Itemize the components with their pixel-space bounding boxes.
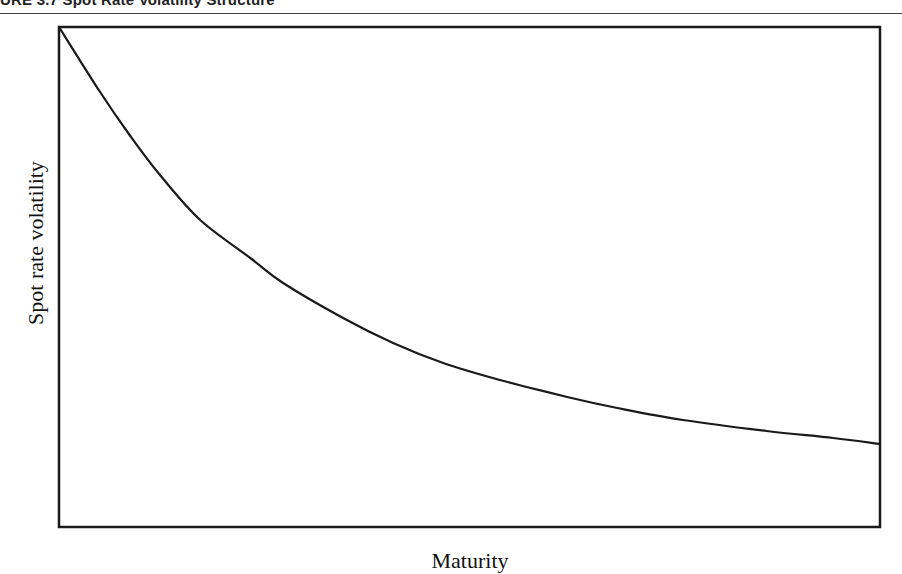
x-axis-label: Maturity [432, 548, 509, 574]
volatility-curve [59, 27, 880, 444]
plot-frame [59, 27, 880, 527]
y-axis-label: Spot rate volatility [23, 161, 49, 325]
